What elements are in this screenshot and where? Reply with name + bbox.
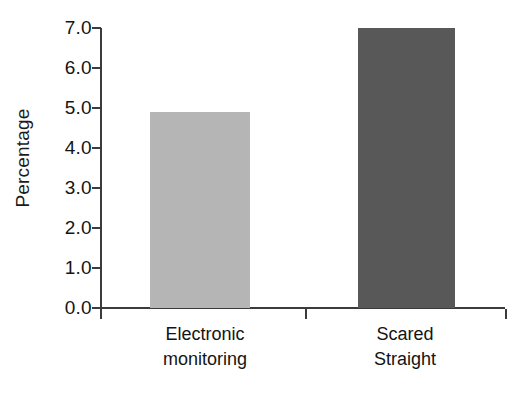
y-tick-label: 4.0 xyxy=(40,137,92,159)
x-category-label-line1: Electronic xyxy=(165,324,244,344)
y-tick-mark xyxy=(92,227,101,229)
y-tick-mark xyxy=(92,267,101,269)
x-tick-mark xyxy=(100,309,102,319)
x-category-label-line1: Scared xyxy=(376,324,433,344)
y-tick-label: 0.0 xyxy=(40,297,92,319)
y-tick-mark xyxy=(92,187,101,189)
x-axis-category-labels: ElectronicmonitoringScaredStraight xyxy=(100,322,505,388)
y-tick-label: 6.0 xyxy=(40,57,92,79)
y-tick-mark xyxy=(92,107,101,109)
y-tick-mark xyxy=(92,27,101,29)
y-axis-title-label: Percentage xyxy=(12,108,34,207)
y-tick-label: 5.0 xyxy=(40,97,92,119)
y-tick-label: 2.0 xyxy=(40,217,92,239)
bar-chart-figure: Percentage 0.01.02.03.04.05.06.07.0 Elec… xyxy=(0,0,525,394)
y-tick-label: 1.0 xyxy=(40,257,92,279)
x-category-label-2: ScaredStraight xyxy=(305,322,505,372)
y-tick-mark xyxy=(92,147,101,149)
x-tick-mark xyxy=(505,309,507,319)
y-tick-mark xyxy=(92,67,101,69)
plot-area xyxy=(100,28,505,308)
x-category-label-line2: Straight xyxy=(305,347,505,372)
y-axis-tick-labels: 0.01.02.03.04.05.06.07.0 xyxy=(38,0,92,394)
bar-1 xyxy=(150,112,250,308)
y-tick-label: 7.0 xyxy=(40,17,92,39)
x-tick-mark xyxy=(305,309,307,319)
y-tick-label: 3.0 xyxy=(40,177,92,199)
bar-2 xyxy=(358,28,455,308)
x-category-label-line2: monitoring xyxy=(100,347,310,372)
x-category-label-1: Electronicmonitoring xyxy=(100,322,310,372)
